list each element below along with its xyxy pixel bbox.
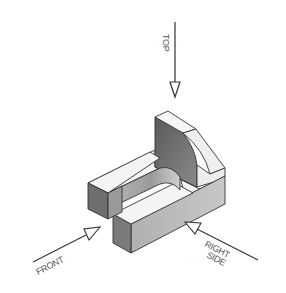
arrowhead-icon xyxy=(84,227,100,240)
top-label: TOP xyxy=(161,34,171,52)
front-label: FRONT xyxy=(34,254,66,277)
arrowhead-down-icon xyxy=(170,82,180,97)
arrowhead-icon xyxy=(185,222,201,234)
isometric-diagram: TOP FRONT RIGHT SIDE xyxy=(0,0,286,293)
bracket-object xyxy=(88,111,225,253)
front-view-arrow xyxy=(33,227,100,262)
